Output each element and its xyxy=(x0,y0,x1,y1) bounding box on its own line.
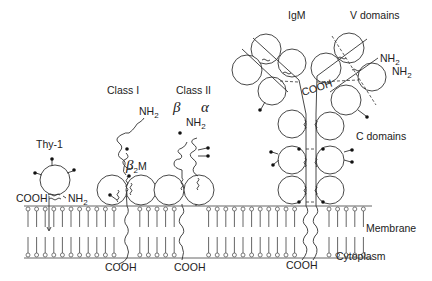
class2-alpha-label: α xyxy=(201,99,210,115)
lipid-bilayer xyxy=(24,206,372,258)
beta2m-label: β2M xyxy=(125,157,147,175)
class1-cooh-label: COOH xyxy=(105,261,137,273)
v-domains-label: V domains xyxy=(350,9,400,21)
igm-nh2-label-b: NH2 xyxy=(392,65,412,80)
igm-molecule xyxy=(232,33,386,260)
igm-cooh-bottom-label: COOH xyxy=(286,259,318,271)
class2-cooh-label: COOH xyxy=(174,261,206,273)
mhc-class-2-molecule xyxy=(154,131,214,260)
c-domains-label: C domains xyxy=(356,130,406,142)
class2-label: Class II xyxy=(176,84,211,96)
class1-label: Class I xyxy=(107,84,139,96)
cytoplasm-label: Cytoplasm xyxy=(336,250,386,262)
thy1-nh2-label: NH2 xyxy=(68,192,88,207)
thy1-cooh-label: COOH xyxy=(16,192,48,204)
class2-nh2-label: NH2 xyxy=(186,116,206,131)
class1-nh2-label: NH2 xyxy=(139,105,159,120)
class2-beta-label: β xyxy=(172,99,181,115)
membrane-label: Membrane xyxy=(366,222,416,234)
ig-superfamily-diagram: Thy-1 COOH NH2 Class I NH2 β2M COOH Clas… xyxy=(0,0,432,281)
thy1-label: Thy-1 xyxy=(36,138,63,150)
igm-label: IgM xyxy=(288,9,306,21)
